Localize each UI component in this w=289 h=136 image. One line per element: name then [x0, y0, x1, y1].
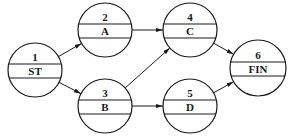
edge-4-to-6	[214, 43, 234, 54]
edge-1-to-3	[59, 82, 81, 93]
node-name: FIN	[249, 63, 268, 75]
node-number: 4	[187, 11, 193, 23]
node-number: 2	[102, 11, 108, 23]
node-2: 2A	[78, 3, 132, 57]
node-number: 6	[255, 49, 261, 61]
node-number: 5	[187, 87, 193, 99]
network-diagram: 1ST2A3B4C5D6FIN	[0, 0, 289, 136]
node-number: 3	[102, 87, 108, 99]
edge-3-to-4	[125, 48, 170, 88]
node-name: D	[186, 101, 194, 113]
node-name: ST	[28, 65, 42, 77]
edge-5-to-6	[214, 82, 234, 93]
edge-1-to-2	[58, 43, 81, 56]
node-1: 1ST	[8, 43, 62, 97]
node-name: A	[101, 25, 109, 37]
node-5: 5D	[163, 79, 217, 133]
node-6: 6FIN	[230, 40, 286, 96]
node-name: B	[101, 101, 109, 113]
node-name: C	[186, 25, 194, 37]
node-3: 3B	[78, 79, 132, 133]
node-number: 1	[32, 51, 38, 63]
node-4: 4C	[163, 3, 217, 57]
